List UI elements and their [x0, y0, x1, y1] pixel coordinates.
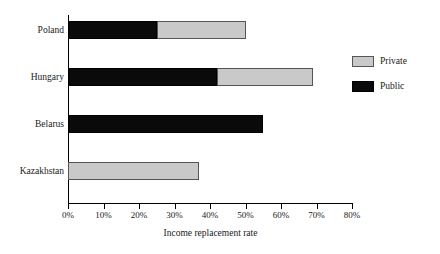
bar-segment-belarus-public — [68, 115, 263, 133]
chart-legend: PrivatePublic — [352, 54, 407, 104]
bar-poland — [68, 21, 246, 39]
bar-segment-poland-public — [68, 21, 157, 39]
bar-segment-hungary-private — [217, 68, 313, 86]
legend-item-private: Private — [352, 54, 407, 68]
bar-segment-kazakhstan-private — [68, 162, 199, 180]
private-swatch — [352, 56, 374, 67]
bar-hungary — [68, 68, 313, 86]
bar-chart: PolandHungaryBelarusKazakhstan 0%10%20%3… — [0, 0, 440, 254]
tick-label-70pct: 70% — [297, 209, 337, 221]
bar-segment-hungary-public — [68, 68, 217, 86]
bar-kazakhstan — [68, 162, 199, 180]
x-axis-title: Income replacement rate — [68, 228, 353, 238]
tick-label-80pct: 80% — [332, 209, 372, 221]
category-label-poland: Poland — [38, 21, 64, 39]
bar-belarus — [68, 115, 263, 133]
category-label-hungary: Hungary — [31, 68, 64, 86]
tick-label-50pct: 50% — [226, 209, 266, 221]
tick-label-60pct: 60% — [261, 209, 301, 221]
tick-label-20pct: 20% — [119, 209, 159, 221]
category-label-belarus: Belarus — [35, 115, 64, 133]
tick-label-0pct: 0% — [48, 209, 88, 221]
category-label-kazakhstan: Kazakhstan — [20, 162, 64, 180]
legend-item-public: Public — [352, 79, 407, 93]
tick-label-30pct: 30% — [155, 209, 195, 221]
tick-label-40pct: 40% — [190, 209, 230, 221]
legend-label-private: Private — [380, 55, 407, 67]
bar-segment-poland-private — [157, 21, 246, 39]
tick-label-10pct: 10% — [84, 209, 124, 221]
public-swatch — [352, 81, 374, 92]
legend-label-public: Public — [380, 80, 404, 92]
